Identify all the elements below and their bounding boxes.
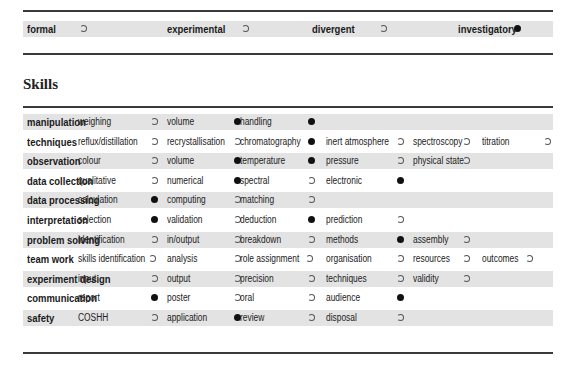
row-shading [23, 153, 553, 169]
skill-item-label: physical state [413, 153, 464, 169]
skill-item-label: application [167, 310, 207, 326]
type-radio-divergent[interactable] [380, 25, 387, 32]
skill-item-label: pressure [326, 153, 359, 169]
skill-item-label: outcomes [482, 251, 518, 267]
selected-dot-icon[interactable] [151, 294, 158, 301]
skill-row: observationcolourvolumetemperaturepressu… [23, 153, 553, 169]
skill-item-label: temperature [240, 153, 285, 169]
type-radio-experimental[interactable] [242, 25, 249, 32]
skill-category: team work [27, 251, 74, 267]
unselected-circle-icon[interactable] [151, 118, 158, 125]
unselected-circle-icon[interactable] [397, 216, 404, 223]
skill-item-label: qualitative [78, 173, 116, 189]
skill-row: communicationreportposteroralaudience [23, 290, 553, 306]
skill-item-label: volume [167, 114, 194, 130]
unselected-circle-icon[interactable] [149, 255, 156, 262]
unselected-circle-icon[interactable] [151, 314, 158, 321]
skill-item-label: handling [240, 114, 272, 130]
type-label-investigatory: investigatory [458, 21, 517, 37]
type-radio-formal[interactable] [80, 25, 87, 32]
skill-item-label: prediction [326, 212, 362, 228]
unselected-circle-icon[interactable] [463, 138, 470, 145]
skill-item-label: computing [167, 192, 206, 208]
skill-item-label: techniques [326, 271, 367, 287]
skill-row: manipulationweighingvolumehandling [23, 114, 553, 130]
type-label-divergent: divergent [312, 21, 355, 37]
selected-dot-icon[interactable] [308, 118, 315, 125]
skill-item-label: disposal [326, 310, 357, 326]
unselected-circle-icon[interactable] [306, 255, 313, 262]
skill-category: experiment design [27, 271, 111, 287]
type-label-experimental: experimental [167, 21, 225, 37]
unselected-circle-icon[interactable] [463, 255, 470, 262]
skills-top-rule [23, 106, 553, 108]
selected-dot-icon[interactable] [308, 138, 315, 145]
skill-row: techniquesreflux/distillationrecrystalli… [23, 134, 553, 150]
unselected-circle-icon[interactable] [544, 138, 551, 145]
skill-item-label: assembly [413, 232, 448, 248]
skill-item-label: in/output [167, 232, 199, 248]
selected-dot-icon[interactable] [397, 294, 404, 301]
skill-item-label: matching [240, 192, 274, 208]
skill-item-label: breakdown [240, 232, 281, 248]
skill-item-label: review [240, 310, 264, 326]
skill-category: safety [27, 310, 54, 326]
skill-item-label: organisation [326, 251, 372, 267]
unselected-circle-icon[interactable] [308, 314, 315, 321]
selected-dot-icon[interactable] [397, 236, 404, 243]
unselected-circle-icon[interactable] [397, 138, 404, 145]
skill-item-label: role assignment [240, 251, 299, 267]
unselected-circle-icon[interactable] [151, 236, 158, 243]
skill-item-label: identification [78, 232, 125, 248]
unselected-circle-icon[interactable] [463, 275, 470, 282]
unselected-circle-icon[interactable] [397, 275, 404, 282]
skill-item-label: output [167, 271, 190, 287]
skill-item-label: calculation [78, 192, 118, 208]
unselected-circle-icon[interactable] [463, 236, 470, 243]
selected-dot-icon[interactable] [308, 216, 315, 223]
skill-item-label: resources [413, 251, 450, 267]
skill-row: data collectionqualitativenumericalspect… [23, 173, 553, 189]
skill-item-label: report [78, 290, 100, 306]
skill-item-label: oral [240, 290, 254, 306]
unselected-circle-icon[interactable] [526, 255, 533, 262]
skill-item-label: reflux/distillation [78, 134, 138, 150]
skill-row: experiment designinputoutputprecisiontec… [23, 271, 553, 287]
type-radio-investigatory[interactable] [514, 25, 521, 32]
skill-item-label: audience [326, 290, 360, 306]
selected-dot-icon[interactable] [151, 216, 158, 223]
skill-item-label: electronic [326, 173, 362, 189]
unselected-circle-icon[interactable] [151, 275, 158, 282]
unselected-circle-icon[interactable] [397, 314, 404, 321]
unselected-circle-icon[interactable] [151, 177, 158, 184]
type-label-formal: formal [27, 21, 56, 37]
unselected-circle-icon[interactable] [151, 138, 158, 145]
skill-item-label: poster [167, 290, 190, 306]
selected-dot-icon[interactable] [397, 177, 404, 184]
unselected-circle-icon[interactable] [308, 177, 315, 184]
skill-item-label: validation [167, 212, 203, 228]
type-bottom-rule [23, 53, 553, 55]
skill-item-label: recrystallisation [167, 134, 225, 150]
unselected-circle-icon[interactable] [308, 294, 315, 301]
unselected-circle-icon[interactable] [308, 275, 315, 282]
skill-item-label: volume [167, 153, 194, 169]
skills-bottom-rule [23, 352, 553, 354]
skill-item-label: selection [78, 212, 111, 228]
skill-item-label: spectral [240, 173, 269, 189]
skill-row: interpretationselectionvalidationdeducti… [23, 212, 553, 228]
unselected-circle-icon[interactable] [308, 236, 315, 243]
skill-item-label: validity [413, 271, 439, 287]
skill-item-label: spectroscopy [413, 134, 462, 150]
skill-row: safetyCOSHHapplicationreviewdisposal [23, 310, 553, 326]
skill-item-label: precision [240, 271, 274, 287]
top-rule [23, 10, 553, 12]
skill-item-label: inert atmosphere [326, 134, 389, 150]
skill-item-label: deduction [240, 212, 276, 228]
skill-row: problem solvingidentificationin/outputbr… [23, 232, 553, 248]
unselected-circle-icon[interactable] [397, 255, 404, 262]
skill-category: observation [27, 153, 81, 169]
skill-item-label: numerical [167, 173, 203, 189]
skill-item-label: chromatography [240, 134, 301, 150]
skill-item-label: input [78, 271, 96, 287]
